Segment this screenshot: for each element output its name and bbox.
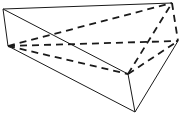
dashed-edges	[8, 3, 178, 74]
solid-edge-df	[8, 46, 135, 112]
dashed-edge-de	[8, 46, 128, 74]
solid-edge-ad	[3, 9, 8, 46]
dashed-edge-dc	[8, 41, 178, 46]
dashed-edge-eb	[128, 3, 172, 74]
solid-edge-ef	[128, 74, 135, 112]
dashed-edge-bc	[172, 3, 178, 41]
dashed-edge-ec	[128, 41, 178, 74]
solid-edge-ab	[3, 3, 172, 9]
prism-diagram	[0, 0, 181, 114]
